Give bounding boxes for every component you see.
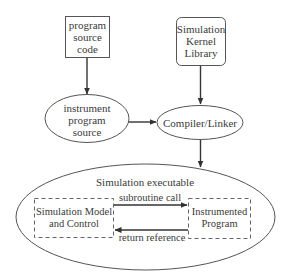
program-source-line-2: source bbox=[73, 31, 102, 43]
executable-label: Simulation executable bbox=[96, 176, 194, 188]
model-control-line-2: and Control bbox=[49, 218, 99, 229]
program-source-line-3: code bbox=[77, 43, 98, 55]
compiler-linker-label: Compiler/Linker bbox=[163, 117, 237, 129]
kernel-library-line-1: Simulation bbox=[177, 23, 226, 35]
kernel-library-line-3: Library bbox=[185, 47, 218, 59]
instrument-source-line-3: source bbox=[73, 126, 102, 138]
model-control-node: Simulation Model and Control bbox=[35, 199, 114, 238]
flow-diagram: program source code instrument program s… bbox=[0, 0, 287, 277]
instrument-source-line-1: instrument bbox=[63, 102, 110, 114]
simulation-executable-node: Simulation executable Simulation Model a… bbox=[16, 164, 275, 270]
instrumented-program-line-1: Instrumented bbox=[192, 206, 248, 217]
instrumented-program-line-2: Program bbox=[201, 218, 237, 229]
kernel-library-node: Simulation Kernel Library bbox=[177, 18, 226, 66]
subroutine-call-label: subroutine call bbox=[119, 192, 181, 203]
instrument-source-line-2: program bbox=[68, 114, 106, 126]
compiler-linker-node: Compiler/Linker bbox=[157, 106, 243, 140]
instrumented-program-node: Instrumented Program bbox=[189, 199, 251, 239]
program-source-line-1: program bbox=[69, 19, 107, 31]
model-control-line-1: Simulation Model bbox=[36, 206, 112, 217]
return-reference-label: return reference bbox=[119, 232, 186, 243]
program-source-code-node: program source code bbox=[66, 17, 110, 58]
kernel-library-line-2: Kernel bbox=[186, 35, 216, 47]
instrument-program-source-node: instrument program source bbox=[45, 95, 129, 143]
